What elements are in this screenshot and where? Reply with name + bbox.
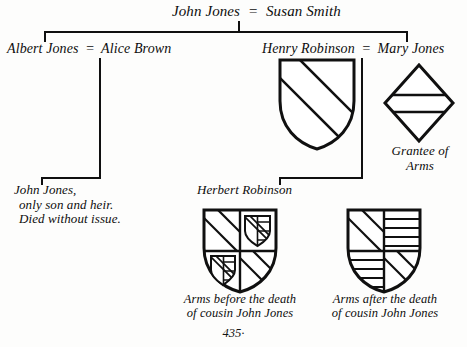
- pedigree-page: John Jones = Susan Smith Albert Jones = …: [0, 0, 467, 347]
- sibling-bar-g2: [44, 31, 408, 33]
- descent-line-albert-elbow: [41, 177, 101, 179]
- person-alice-brown: Alice Brown: [101, 41, 171, 56]
- lozenge-outline-mary: [382, 62, 456, 144]
- couple-john-jones-susan-smith: John Jones = Susan Smith: [172, 3, 341, 20]
- couple-henry-robinson-mary-jones: Henry Robinson = Mary Jones: [262, 41, 444, 57]
- person-herbert-robinson: Herbert Robinson: [197, 183, 292, 198]
- marriage-mark-right: =: [361, 41, 371, 56]
- caption-arms-after: Arms after the death of cousin John Jone…: [305, 292, 465, 320]
- descent-line-albert-drop: [99, 58, 101, 179]
- marriage-mark: =: [248, 3, 258, 19]
- john-jones-jr-line2: only son and heir.: [14, 198, 194, 213]
- shield-outline-after: [345, 207, 423, 295]
- person-albert-jones: Albert Jones: [7, 41, 79, 56]
- herbert-arms-after: [345, 207, 423, 295]
- marriage-mark-left: =: [85, 41, 95, 56]
- henry-robinson-arms: [277, 57, 357, 152]
- person-john-jones-jr-block: John Jones, only son and heir. Died with…: [14, 183, 194, 227]
- john-jones-jr-line1: John Jones,: [14, 183, 194, 198]
- person-susan-smith: Susan Smith: [266, 3, 341, 19]
- descent-line-henry-drop: [361, 58, 363, 179]
- shield-outline-henry: [277, 57, 357, 152]
- grantee-of-arms-label: Grantee of Arms: [377, 144, 463, 173]
- mary-jones-lozenge: [382, 62, 456, 144]
- person-john-jones-sr: John Jones: [172, 3, 240, 19]
- descent-line-henry-elbow: [279, 177, 363, 179]
- person-mary-jones: Mary Jones: [378, 41, 445, 56]
- page-number: 435·: [0, 326, 467, 341]
- caption-after-line2: of cousin John Jones: [305, 306, 465, 320]
- caption-arms-before: Arms before the death of cousin John Jon…: [160, 292, 320, 320]
- john-jones-jr-line3: Died without issue.: [14, 212, 194, 227]
- person-henry-robinson: Henry Robinson: [262, 41, 355, 56]
- caption-after-line1: Arms after the death: [305, 292, 465, 306]
- herbert-arms-before: [201, 207, 279, 295]
- caption-before-line2: of cousin John Jones: [160, 306, 320, 320]
- grantee-label-line1: Grantee of: [377, 144, 463, 159]
- couple-albert-jones-alice-brown: Albert Jones = Alice Brown: [7, 41, 171, 57]
- grantee-label-line2: Arms: [377, 159, 463, 174]
- caption-before-line1: Arms before the death: [160, 292, 320, 306]
- shield-outline-before: [201, 207, 279, 295]
